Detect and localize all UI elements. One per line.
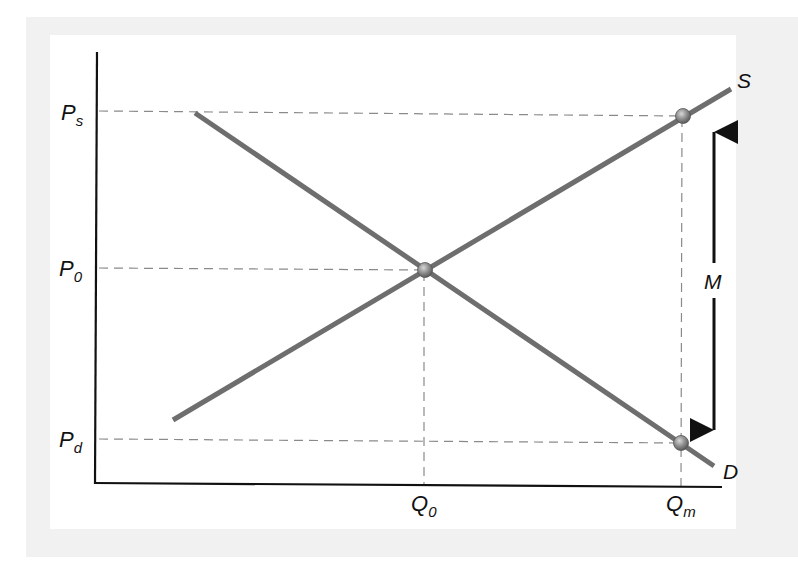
p0-guide-line <box>99 268 425 270</box>
demand-curve <box>195 113 714 466</box>
ps-label: Ps <box>61 100 84 129</box>
x-axis <box>94 483 722 487</box>
qm-guide-line <box>681 118 682 486</box>
supply-curve <box>173 89 731 420</box>
demand-price-point <box>674 436 689 451</box>
points <box>418 109 691 451</box>
p0-label: P0 <box>59 256 83 285</box>
pd-guide-line <box>99 439 681 443</box>
pd-label: Pd <box>59 427 83 456</box>
demand-label: D <box>723 460 738 483</box>
qm-label: Qm <box>666 491 696 520</box>
q0-label: Q0 <box>411 491 437 520</box>
ps-guide-line <box>99 111 682 116</box>
markup-label: M <box>704 270 722 293</box>
curves <box>173 89 731 466</box>
equilibrium-point <box>418 263 433 278</box>
supply-price-point <box>676 109 691 124</box>
supply-demand-chart: Ps P0 Pd Q0 Qm S D M <box>0 0 798 566</box>
axes <box>94 52 722 487</box>
supply-label: S <box>737 69 751 92</box>
y-axis <box>95 52 97 484</box>
